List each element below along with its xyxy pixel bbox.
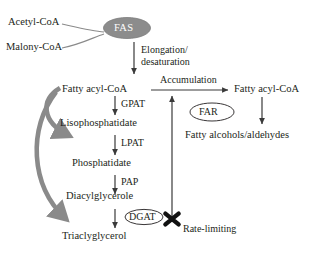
label-fatty-acyl-coa: Fatty acyl-CoA	[62, 83, 127, 94]
feedback-arc-long	[37, 92, 65, 218]
label-pap: PAP	[121, 177, 138, 188]
label-lysophosphatidate: Lisophosphatidate	[60, 117, 137, 128]
label-phosphatidate: Phosphatidate	[72, 157, 131, 168]
substrate-feed-lines	[62, 24, 104, 48]
label-acetyl-coa: Acetyl-CoA	[8, 16, 59, 27]
label-lpat: LPAT	[121, 138, 144, 149]
label-dgat: DGAT	[129, 211, 156, 222]
label-far: FAR	[199, 106, 218, 117]
label-rate-limiting: Rate-limiting	[183, 224, 236, 235]
label-fas: FAS	[114, 22, 133, 33]
label-accumulation: Accumulation	[160, 75, 217, 86]
label-triacylglycerol: Triaclyglycerol	[62, 230, 126, 241]
label-elongation-desaturation: Elongation/ desaturation	[141, 44, 190, 67]
label-fatty-acyl-coa-pool: Fatty acyl-CoA	[234, 83, 299, 94]
label-malonyl-coa: Malony-CoA	[6, 41, 62, 52]
label-gpat: GPAT	[121, 99, 145, 110]
pathway-diagram: Acetyl-CoA Malony-CoA FAS Elongation/ de…	[0, 0, 309, 253]
label-diacylglycerol: Diacylglycerole	[66, 190, 133, 201]
label-fatty-alcohols-aldehydes: Fatty alcohols/aldehydes	[185, 129, 289, 140]
